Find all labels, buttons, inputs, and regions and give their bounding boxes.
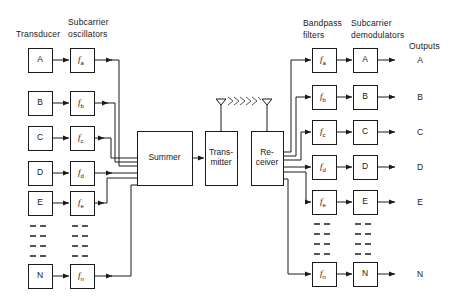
ellipsis-filter-column: [314, 224, 334, 254]
transducer-label-c: C: [28, 133, 52, 143]
filter-label-b: fb: [320, 91, 326, 103]
output-label-e: E: [410, 197, 430, 207]
ellipsis-demodulator-column: [355, 224, 375, 254]
bus-receiver-to-filter-e: [283, 172, 311, 202]
header-bandpass-filters-1: Bandpass: [303, 18, 342, 29]
oscillator-label-e: fe: [78, 197, 84, 209]
bus-osc-n-to-summer: [111, 185, 137, 276]
bus-osc-e-to-summer: [103, 178, 137, 203]
demodulator-label-e: E: [353, 197, 377, 207]
demodulator-label-c: C: [353, 127, 377, 137]
header-outputs: Outputs: [409, 41, 440, 52]
oscillator-label-b: fb: [78, 97, 84, 109]
oscillator-label-d: fd: [78, 167, 84, 179]
header-subcarrier-demodulators-2: demodulators: [351, 30, 404, 41]
receiver-label: Re-ceiver: [251, 147, 283, 167]
filter-label-c: fc: [320, 126, 326, 138]
diagram-canvas: Transducer Subcarrier oscillators Bandpa…: [0, 0, 460, 307]
bus-osc-c-to-summer: [103, 138, 137, 158]
bus-receiver-to-filter-b: [283, 97, 311, 156]
filter-label-e: fe: [320, 196, 326, 208]
radio-wave-chevrons: [228, 97, 261, 105]
output-label-d: D: [410, 162, 430, 172]
header-transducer: Transducer: [16, 29, 60, 40]
output-label-b: B: [410, 92, 430, 102]
bus-receiver-to-filter-a: [283, 60, 311, 152]
demodulator-label-d: D: [353, 162, 377, 172]
demodulator-label-b: B: [353, 92, 377, 102]
filter-label-d: fd: [320, 161, 326, 173]
demodulator-label-a: A: [353, 55, 377, 65]
transducer-label-a: A: [28, 55, 52, 65]
bus-receiver-to-filter-n: [283, 179, 311, 274]
transmitter-antenna-icon: [216, 99, 226, 105]
receiver-antenna-icon: [262, 99, 272, 105]
ellipsis-marks: [30, 224, 375, 256]
transducer-label-d: D: [28, 168, 52, 178]
ellipsis-oscillator-column: [72, 226, 92, 256]
ellipsis-transducer-column: [30, 226, 50, 256]
header-subcarrier-oscillators-1: Subcarrier: [68, 17, 109, 28]
transducer-label-e: E: [28, 198, 52, 208]
oscillator-label-n: fn: [78, 270, 84, 282]
output-label-a: A: [410, 55, 430, 65]
summer-label: Summer: [137, 152, 192, 162]
filter-label-n: fn: [320, 268, 326, 280]
filter-label-a: fa: [320, 54, 326, 66]
transmitter-label: Trans-mitter: [205, 147, 237, 167]
output-label-c: C: [410, 127, 430, 137]
oscillator-label-a: fa: [78, 54, 84, 66]
oscillator-label-c: fc: [78, 132, 84, 144]
header-subcarrier-oscillators-2: oscillators: [68, 29, 107, 40]
output-label-n: N: [410, 269, 430, 279]
header-subcarrier-demodulators-1: Subcarrier: [351, 18, 392, 29]
transducer-label-n: N: [28, 271, 52, 281]
header-bandpass-filters-2: filters: [303, 30, 324, 41]
transducer-label-b: B: [28, 98, 52, 108]
demodulator-label-n: N: [353, 269, 377, 279]
